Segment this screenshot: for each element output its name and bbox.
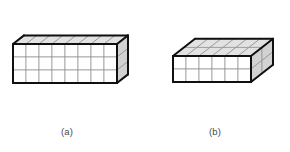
cube-front-face (225, 56, 238, 69)
cube-front-face (91, 70, 104, 83)
figure-b-caption: (b) (196, 126, 234, 137)
cube-front-face (91, 57, 104, 70)
cube-front-face (13, 70, 26, 83)
cube-front-face (91, 44, 104, 57)
cube-front-face (52, 57, 65, 70)
cube-front-face (26, 44, 39, 57)
figure-a-cubes (13, 35, 128, 83)
cube-front-face (13, 57, 26, 70)
cube-front-face (39, 70, 52, 83)
cube-front-face (65, 57, 78, 70)
cube-front-face (26, 70, 39, 83)
cube-front-face (65, 70, 78, 83)
cube-front-face (173, 69, 186, 82)
cube-front-face (186, 69, 199, 82)
cube-front-face (238, 56, 251, 69)
cube-figures-svg (0, 0, 290, 152)
cube-front-face (199, 69, 212, 82)
cube-front-face (104, 70, 117, 83)
figure-panel: (a) (b) (0, 0, 290, 152)
cube-front-face (52, 70, 65, 83)
cube-front-face (225, 69, 238, 82)
cube-front-face (78, 44, 91, 57)
cube-front-face (78, 70, 91, 83)
cube-front-face (39, 57, 52, 70)
cube-front-face (186, 56, 199, 69)
cube-front-face (52, 44, 65, 57)
cube-front-face (238, 69, 251, 82)
figure-b-cubes (173, 39, 273, 82)
cube-front-face (173, 56, 186, 69)
cube-front-face (39, 44, 52, 57)
cube-front-face (212, 69, 225, 82)
cube-front-face (104, 57, 117, 70)
figure-a-caption: (a) (48, 126, 86, 137)
cube-front-face (78, 57, 91, 70)
cube-front-face (26, 57, 39, 70)
cube-front-face (104, 44, 117, 57)
cube-front-face (212, 56, 225, 69)
cube-front-face (65, 44, 78, 57)
cube-front-face (13, 44, 26, 57)
cube-front-face (199, 56, 212, 69)
